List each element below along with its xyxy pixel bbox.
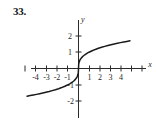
x-axis-label: x [147, 60, 152, 69]
y-tick-label-neg2: -2 [67, 97, 74, 106]
x-tick-label-neg2: -2 [54, 73, 61, 82]
y-tick-label-2: 2 [68, 32, 72, 41]
y-axis-label: y [80, 15, 85, 24]
x-tick-label-2: 2 [98, 73, 102, 82]
x-tick-label-neg3: -3 [43, 73, 50, 82]
x-tick-label-4: 4 [119, 73, 123, 82]
y-tick-label-1: 1 [68, 48, 72, 57]
x-tick-label-1: 1 [88, 73, 92, 82]
x-tick-label-neg4: -4 [32, 73, 39, 82]
x-tick-label-3: 3 [109, 73, 113, 82]
textbook-figure: 33. -4 -3 -2 -1 1 2 [0, 0, 157, 122]
axes-group [31, 20, 146, 118]
graph-plot: -4 -3 -2 -1 1 2 3 4 2 1 -1 -2 x y [0, 0, 157, 122]
